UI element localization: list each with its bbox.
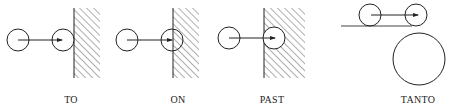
label-to: TO — [64, 94, 78, 105]
panel-past — [218, 8, 305, 78]
label-past: PAST — [260, 94, 285, 105]
panel-to — [7, 8, 100, 78]
label-tanto: TANTO — [401, 94, 435, 105]
panel-tanto — [341, 4, 445, 85]
large-circle — [393, 33, 445, 85]
wall-hatched — [74, 8, 100, 78]
panel-on — [116, 8, 199, 78]
label-on: ON — [170, 94, 185, 105]
